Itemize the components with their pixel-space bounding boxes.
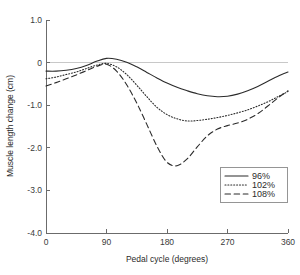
y-tick-label: 1.0 [30, 15, 42, 25]
x-axis-title: Pedal cycle (degrees) [126, 254, 208, 264]
chart-container: 1.0 0 -1.0 -2.0 -3.0 -4.0 0 90 180 270 3… [0, 0, 300, 275]
x-axis-ticks [46, 229, 288, 233]
y-tick-label: -3.0 [27, 185, 42, 195]
x-tick-label: 270 [220, 237, 234, 247]
x-tick-label: 360 [281, 237, 295, 247]
y-tick-label: -4.0 [27, 228, 42, 238]
legend: 96% 102% 108% [221, 168, 288, 203]
series-line-96 [46, 58, 288, 96]
y-axis-tick-labels: 1.0 0 -1.0 -2.0 -3.0 -4.0 [27, 15, 42, 238]
legend-label-108: 108% [252, 189, 275, 199]
y-tick-label: -2.0 [27, 143, 42, 153]
y-axis-title: Muscle length change (cm) [5, 75, 15, 177]
y-axis-ticks [46, 20, 50, 233]
x-tick-label: 90 [102, 237, 112, 247]
y-tick-label: 0 [37, 58, 42, 68]
x-axis-tick-labels: 0 90 180 270 360 [44, 237, 296, 247]
y-tick-label: -1.0 [27, 100, 42, 110]
x-tick-label: 180 [160, 237, 174, 247]
line-chart: 1.0 0 -1.0 -2.0 -3.0 -4.0 0 90 180 270 3… [0, 0, 300, 275]
x-tick-label: 0 [44, 237, 49, 247]
